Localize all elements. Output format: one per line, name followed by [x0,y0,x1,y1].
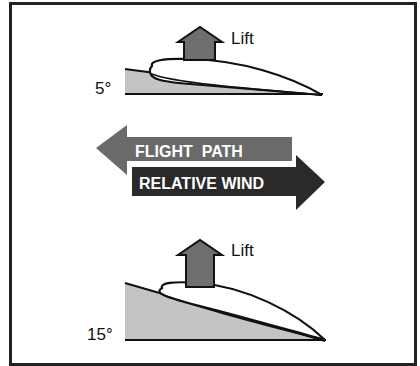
top-airfoil-group: Lift 5° [95,27,323,98]
angle-label-top: 5° [95,79,111,98]
relative-wind-arrow: RELATIVE WIND [132,155,325,210]
bottom-airfoil-group: Lift 15° [87,240,326,344]
lift-label-top: Lift [231,29,254,48]
lift-arrow-icon-top [178,27,222,60]
lift-arrow-icon-bottom [178,240,222,287]
angle-label-bottom: 15° [87,325,113,344]
lift-label-bottom: Lift [231,241,254,260]
relative-wind-label: RELATIVE WIND [139,175,264,192]
angle-of-attack-diagram: Lift 5° FLIGHT PATH RELATIVE WIND Lift 1… [0,0,420,366]
flight-path-label: FLIGHT PATH [135,143,243,160]
